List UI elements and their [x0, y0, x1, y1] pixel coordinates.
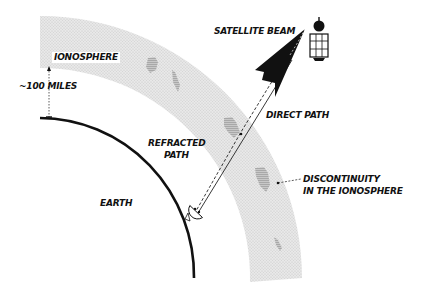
refracted-path-label-line1: REFRACTED — [148, 138, 205, 149]
satellite-icon — [310, 17, 328, 61]
satellite-beam-arrow — [255, 29, 305, 97]
ionosphere-label: IONOSPHERE — [52, 52, 120, 63]
discontinuity-label-line1: DISCONTINUITY — [303, 174, 380, 185]
refraction-point-icon — [240, 133, 243, 136]
leader-dot-icon — [277, 182, 280, 185]
discontinuity-label-line2: IN THE IONOSPHERE — [303, 186, 403, 197]
satellite-beam-label: SATELLITE BEAM — [214, 26, 295, 37]
earth-label: EARTH — [100, 198, 132, 209]
refracted-path-label-line2: PATH — [164, 150, 189, 161]
diagram-canvas — [0, 0, 426, 294]
direct-path-label: DIRECT PATH — [266, 110, 329, 121]
altitude-label: ~100 MILES — [19, 81, 77, 92]
